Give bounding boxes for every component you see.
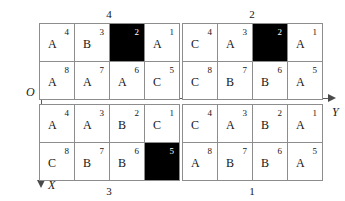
grid-cell: A5 xyxy=(288,143,322,180)
grid-block-bottom-right: C4A3B2A1A8B7B6A5 xyxy=(182,104,323,181)
cell-letter: A xyxy=(296,76,305,88)
cell-index: 1 xyxy=(313,109,318,118)
cell-letter: A xyxy=(118,76,127,88)
cell-index: 8 xyxy=(208,147,213,156)
cell-index: 1 xyxy=(313,28,318,37)
grid-cell: B7 xyxy=(218,62,252,99)
cell-index: 4 xyxy=(65,109,70,118)
grid-cell: B2 xyxy=(253,105,287,142)
grid-cell: B7 xyxy=(75,143,109,180)
cell-letter: A xyxy=(296,157,305,169)
cell-letter: B xyxy=(261,76,269,88)
cell-index: 3 xyxy=(100,28,105,37)
cell-index: 5 xyxy=(313,66,318,75)
grid-cell: A6 xyxy=(110,62,144,99)
block-caption-bottom-left: 3 xyxy=(39,186,179,197)
y-axis-arrow-icon xyxy=(328,94,336,102)
grid-cell: A3 xyxy=(218,105,252,142)
cell-index: 4 xyxy=(65,28,70,37)
cell-letter: A xyxy=(83,119,92,131)
grid-cell: A5 xyxy=(288,62,322,99)
cell-letter: B xyxy=(83,157,91,169)
cell-index: 6 xyxy=(278,66,283,75)
cell-letter: C xyxy=(191,38,199,50)
cell-index: 5 xyxy=(313,147,318,156)
grid-cell: C1 xyxy=(145,105,179,142)
cell-index: 1 xyxy=(170,109,175,118)
cell-index: 2 xyxy=(278,28,283,37)
cell-letter: C xyxy=(48,157,56,169)
cell-letter: A xyxy=(83,76,92,88)
cell-letter: B xyxy=(226,157,234,169)
grid-cell: A3 xyxy=(75,105,109,142)
cell-index: 7 xyxy=(243,147,248,156)
origin-label: O xyxy=(26,86,35,98)
grid-cell: B6 xyxy=(253,62,287,99)
grid-block-top-left: A4B32A1A8A7A6C5 xyxy=(39,23,180,100)
cell-index: 5 xyxy=(170,66,175,75)
grid-cell: C4 xyxy=(183,105,217,142)
cell-letter: A xyxy=(226,38,235,50)
cell-index: 2 xyxy=(135,109,140,118)
cell-index: 6 xyxy=(135,147,140,156)
cell-index: 5 xyxy=(170,147,175,156)
cell-letter: B xyxy=(261,157,269,169)
grid-cell: B6 xyxy=(110,143,144,180)
cell-letter: A xyxy=(296,119,305,131)
grid-cell: A7 xyxy=(75,62,109,99)
cell-index: 2 xyxy=(278,109,283,118)
grid-cell: A1 xyxy=(145,24,179,61)
cell-letter: B xyxy=(261,119,269,131)
cell-index: 6 xyxy=(135,66,140,75)
cell-letter: B xyxy=(83,38,91,50)
cell-index: 7 xyxy=(243,66,248,75)
grid-cell: B6 xyxy=(253,143,287,180)
cell-index: 3 xyxy=(243,109,248,118)
cell-index: 3 xyxy=(100,109,105,118)
block-caption-bottom-right: 1 xyxy=(182,186,322,197)
grid-cell: B2 xyxy=(110,105,144,142)
grid-block-bottom-left: A4A3B2C1C8B7B65 xyxy=(39,104,180,181)
quadrant-grid-figure: O Y X 4 2 3 1 A4B32A1A8A7A6C5 C4A32A1C8B… xyxy=(0,0,345,201)
cell-letter: B xyxy=(226,76,234,88)
grid-cell: A1 xyxy=(288,24,322,61)
cell-letter: B xyxy=(118,157,126,169)
cell-index: 4 xyxy=(208,109,213,118)
block-caption-top-right: 2 xyxy=(182,9,322,20)
grid-cell: C4 xyxy=(183,24,217,61)
cell-index: 3 xyxy=(243,28,248,37)
grid-cell: A8 xyxy=(40,62,74,99)
grid-cell: B3 xyxy=(75,24,109,61)
grid-cell: C8 xyxy=(183,62,217,99)
block-caption-top-left: 4 xyxy=(39,9,179,20)
grid-cell-filled: 2 xyxy=(253,24,287,61)
cell-index: 2 xyxy=(135,28,140,37)
cell-index: 8 xyxy=(65,147,70,156)
y-axis-label: Y xyxy=(332,106,339,118)
cell-letter: A xyxy=(296,38,305,50)
cell-letter: C xyxy=(153,119,161,131)
cell-letter: A xyxy=(191,157,200,169)
cell-index: 8 xyxy=(65,66,70,75)
grid-cell: A3 xyxy=(218,24,252,61)
cell-letter: A xyxy=(48,76,57,88)
grid-cell: C5 xyxy=(145,62,179,99)
cell-letter: C xyxy=(191,119,199,131)
grid-cell-filled: 2 xyxy=(110,24,144,61)
cell-index: 1 xyxy=(170,28,175,37)
cell-index: 7 xyxy=(100,66,105,75)
grid-cell-filled: 5 xyxy=(145,143,179,180)
cell-index: 4 xyxy=(208,28,213,37)
grid-cell: B7 xyxy=(218,143,252,180)
cell-letter: A xyxy=(48,38,57,50)
grid-cell: C8 xyxy=(40,143,74,180)
cell-letter: A xyxy=(226,119,235,131)
cell-letter: C xyxy=(191,76,199,88)
cell-index: 8 xyxy=(208,66,213,75)
cell-index: 6 xyxy=(278,147,283,156)
grid-block-top-right: C4A32A1C8B7B6A5 xyxy=(182,23,323,100)
grid-cell: A8 xyxy=(183,143,217,180)
grid-cell: A4 xyxy=(40,105,74,142)
cell-letter: A xyxy=(153,38,162,50)
cell-letter: A xyxy=(48,119,57,131)
